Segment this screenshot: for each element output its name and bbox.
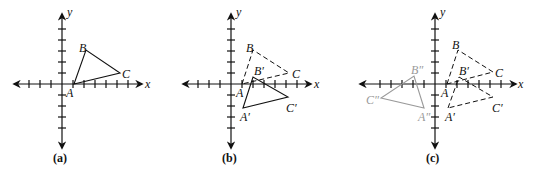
y-axis-label: y xyxy=(439,5,446,19)
vertex-label-b: B xyxy=(79,41,87,55)
vertex-label-b-prime: B′ xyxy=(459,64,469,78)
coordinate-axes xyxy=(360,14,516,148)
panel-caption: (b) xyxy=(222,151,237,165)
y-axis-label: y xyxy=(235,5,242,19)
panel-caption: (c) xyxy=(426,151,439,165)
vertex-label-c-prime: C′ xyxy=(492,101,503,115)
x-axis-label: x xyxy=(313,77,320,91)
vertex-label-b: B xyxy=(246,41,254,55)
vertex-label-a-prime: A′ xyxy=(239,110,250,124)
triangle-abc xyxy=(74,50,120,84)
vertex-label-a-prime: A′ xyxy=(444,110,455,124)
vertex-label-a: A xyxy=(440,86,449,100)
x-axis-label: x xyxy=(517,77,524,91)
vertex-label-c: C xyxy=(122,67,131,81)
panel-c: x y A B C A′ B′ C′ A″ B″ C″ (c) xyxy=(360,5,524,165)
triangle-abc-dashed xyxy=(447,50,493,84)
transformation-diagram: x y A B C (a) x y xyxy=(0,0,535,175)
panel-b: x y A B C A′ B′ C′ (b) xyxy=(183,5,320,165)
vertex-label-b-prime: B′ xyxy=(254,64,264,78)
coordinate-axes xyxy=(183,14,311,148)
panel-a: x y A B C (a) xyxy=(14,5,151,165)
vertex-label-a: A xyxy=(65,86,74,100)
triangle-abc-dashed xyxy=(242,50,289,84)
vertex-label-b-double-prime: B″ xyxy=(411,63,424,77)
triangle-a-prime-b-prime-c-prime xyxy=(243,77,288,108)
x-axis-label: x xyxy=(144,77,151,91)
vertex-label-c: C xyxy=(495,66,504,80)
vertex-label-c: C xyxy=(292,67,301,81)
y-axis-label: y xyxy=(66,5,73,19)
vertex-label-c-prime: C′ xyxy=(286,101,297,115)
panel-caption: (a) xyxy=(53,151,67,165)
vertex-label-a-double-prime: A″ xyxy=(417,110,431,124)
coordinate-axes xyxy=(14,14,142,148)
vertex-label-c-double-prime: C″ xyxy=(366,93,380,107)
vertex-label-a: A xyxy=(235,86,244,100)
vertex-label-b: B xyxy=(452,38,460,52)
